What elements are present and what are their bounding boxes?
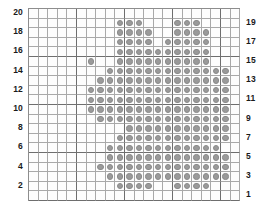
grid-cell[interactable] <box>39 105 49 115</box>
grid-cell[interactable] <box>106 143 116 153</box>
grid-cell[interactable] <box>211 105 221 115</box>
grid-cell[interactable] <box>202 143 212 153</box>
grid-cell[interactable] <box>67 19 77 29</box>
grid-cell[interactable] <box>115 86 125 96</box>
grid-cell[interactable] <box>87 134 97 144</box>
grid-cell[interactable] <box>58 57 68 67</box>
grid-cell[interactable] <box>154 38 164 48</box>
grid-cell[interactable] <box>106 115 116 125</box>
grid-cell[interactable] <box>29 67 39 77</box>
grid-cell[interactable] <box>125 124 135 134</box>
grid-cell[interactable] <box>221 76 231 86</box>
grid-cell[interactable] <box>202 153 212 163</box>
grid-cell[interactable] <box>48 153 58 163</box>
grid-cell[interactable] <box>154 19 164 29</box>
grid-cell[interactable] <box>67 67 77 77</box>
grid-cell[interactable] <box>96 191 106 201</box>
grid-cell[interactable] <box>192 67 202 77</box>
grid-cell[interactable] <box>211 9 221 19</box>
grid-cell[interactable] <box>163 76 173 86</box>
grid-cell[interactable] <box>173 153 183 163</box>
grid-cell[interactable] <box>125 76 135 86</box>
grid-cell[interactable] <box>163 134 173 144</box>
grid-cell[interactable] <box>192 124 202 134</box>
grid-cell[interactable] <box>87 19 97 29</box>
grid-cell[interactable] <box>163 95 173 105</box>
grid-cell[interactable] <box>231 19 241 29</box>
grid-cell[interactable] <box>39 182 49 192</box>
grid-cell[interactable] <box>106 57 116 67</box>
grid-cell[interactable] <box>96 9 106 19</box>
grid-cell[interactable] <box>231 182 241 192</box>
grid-cell[interactable] <box>163 19 173 29</box>
grid-cell[interactable] <box>192 105 202 115</box>
grid-cell[interactable] <box>96 57 106 67</box>
grid-cell[interactable] <box>163 86 173 96</box>
grid-cell[interactable] <box>144 76 154 86</box>
grid-cell[interactable] <box>231 163 241 173</box>
grid-cell[interactable] <box>221 182 231 192</box>
grid-cell[interactable] <box>87 67 97 77</box>
grid-cell[interactable] <box>67 191 77 201</box>
grid-cell[interactable] <box>106 38 116 48</box>
grid-cell[interactable] <box>183 172 193 182</box>
grid-cell[interactable] <box>154 67 164 77</box>
grid-cell[interactable] <box>96 38 106 48</box>
grid-cell[interactable] <box>106 19 116 29</box>
grid-cell[interactable] <box>231 153 241 163</box>
grid-cell[interactable] <box>144 57 154 67</box>
grid-cell[interactable] <box>211 28 221 38</box>
grid-cell[interactable] <box>173 57 183 67</box>
grid-cell[interactable] <box>48 191 58 201</box>
grid-cell[interactable] <box>231 38 241 48</box>
grid-cell[interactable] <box>144 134 154 144</box>
grid-cell[interactable] <box>144 19 154 29</box>
grid-cell[interactable] <box>173 182 183 192</box>
grid-cell[interactable] <box>106 9 116 19</box>
grid-cell[interactable] <box>231 134 241 144</box>
grid-cell[interactable] <box>221 28 231 38</box>
grid-cell[interactable] <box>202 105 212 115</box>
grid-cell[interactable] <box>48 134 58 144</box>
grid-cell[interactable] <box>48 143 58 153</box>
grid-cell[interactable] <box>115 134 125 144</box>
grid-cell[interactable] <box>154 182 164 192</box>
grid-cell[interactable] <box>173 86 183 96</box>
grid-cell[interactable] <box>125 153 135 163</box>
grid-cell[interactable] <box>67 57 77 67</box>
grid-cell[interactable] <box>192 38 202 48</box>
grid-cell[interactable] <box>163 57 173 67</box>
grid-cell[interactable] <box>135 19 145 29</box>
grid-cell[interactable] <box>29 86 39 96</box>
grid-cell[interactable] <box>58 38 68 48</box>
grid-cell[interactable] <box>135 182 145 192</box>
grid-cell[interactable] <box>39 38 49 48</box>
grid-cell[interactable] <box>231 47 241 57</box>
grid-cell[interactable] <box>211 115 221 125</box>
grid-cell[interactable] <box>48 57 58 67</box>
grid-cell[interactable] <box>106 182 116 192</box>
grid-cell[interactable] <box>87 182 97 192</box>
grid-cell[interactable] <box>163 9 173 19</box>
grid-cell[interactable] <box>39 153 49 163</box>
grid-cell[interactable] <box>221 95 231 105</box>
grid-cell[interactable] <box>144 115 154 125</box>
grid-cell[interactable] <box>29 95 39 105</box>
grid-cell[interactable] <box>48 38 58 48</box>
grid-cell[interactable] <box>231 143 241 153</box>
grid-cell[interactable] <box>135 153 145 163</box>
grid-cell[interactable] <box>115 182 125 192</box>
grid-cell[interactable] <box>221 86 231 96</box>
grid-cell[interactable] <box>183 105 193 115</box>
grid-cell[interactable] <box>87 9 97 19</box>
grid-cell[interactable] <box>106 86 116 96</box>
grid-cell[interactable] <box>29 105 39 115</box>
grid-cell[interactable] <box>135 95 145 105</box>
grid-cell[interactable] <box>192 134 202 144</box>
grid-cell[interactable] <box>231 105 241 115</box>
grid-cell[interactable] <box>135 57 145 67</box>
grid-cell[interactable] <box>115 115 125 125</box>
grid-cell[interactable] <box>202 28 212 38</box>
grid-cell[interactable] <box>96 124 106 134</box>
grid-cell[interactable] <box>154 191 164 201</box>
